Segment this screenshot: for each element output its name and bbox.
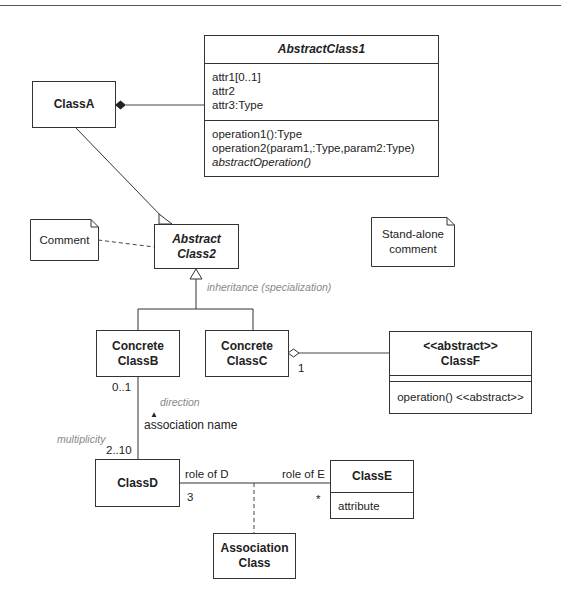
abstract-class2-name-line1: Abstract: [172, 232, 221, 247]
abstract-class1-attributes: attr1[0..1] attr2 attr3:Type: [205, 63, 438, 120]
class-a[interactable]: ClassA: [32, 81, 116, 128]
abstract-class1-header: AbstractClass1: [205, 36, 438, 63]
multiplicity-d-top: 2..10: [106, 443, 132, 457]
inheritance-label: inheritance (specialization): [207, 281, 331, 293]
concrete-class-c[interactable]: Concrete ClassC: [205, 330, 289, 377]
role-of-d: role of D: [185, 467, 228, 481]
operation: operation2(param1,:Type,param2:Type): [212, 141, 438, 155]
abstract-class1-operations: operation1():Type operation2(param1,:Typ…: [205, 120, 438, 169]
attribute: attr2: [212, 84, 438, 98]
concrete-class-c-name-line1: Concrete: [221, 339, 273, 354]
generalization-arrow-icon: [159, 214, 172, 224]
attribute: attr3:Type: [212, 98, 438, 112]
aggregation-diamond-icon: [288, 349, 299, 357]
class-e-attribute: attribute: [338, 500, 380, 512]
composition-diamond-icon: [115, 101, 126, 110]
class-e[interactable]: ClassE attribute: [330, 460, 414, 519]
comment-note[interactable]: Comment: [30, 219, 99, 261]
standalone-comment-line1: Stand-alone: [382, 227, 444, 242]
role-of-e: role of E: [282, 467, 325, 481]
concrete-class-b-name-line2: ClassB: [112, 354, 164, 369]
abstract-class2-name-line2: Class2: [172, 247, 221, 262]
standalone-comment-line2: comment: [382, 242, 444, 257]
class-f[interactable]: <<abstract>> ClassF operation() <<abstra…: [389, 331, 532, 414]
class-f-operation: operation() <<abstract>>: [397, 390, 524, 404]
class-d-name: ClassD: [117, 476, 158, 491]
concrete-class-b-name-line1: Concrete: [112, 339, 164, 354]
association-class-name-line2: Class: [220, 556, 288, 571]
abstract-class1-name: AbstractClass1: [278, 42, 365, 57]
abstract-class2[interactable]: Abstract Class2: [154, 224, 239, 269]
class-e-attributes: attribute: [331, 492, 413, 513]
class-a-name: ClassA: [54, 97, 95, 112]
multiplicity-d-right: 3: [187, 490, 193, 504]
multiplicity-e: *: [316, 492, 320, 506]
multiplicity-label: multiplicity: [57, 433, 105, 445]
multiplicity-c: 1: [298, 361, 304, 375]
class-f-operations: operation() <<abstract>>: [390, 381, 531, 412]
association-class[interactable]: Association Class: [213, 533, 296, 579]
class-d[interactable]: ClassD: [95, 459, 180, 507]
abstract-class1[interactable]: AbstractClass1 attr1[0..1] attr2 attr3:T…: [204, 35, 439, 177]
direction-label: direction: [160, 396, 200, 408]
association-name: association name: [144, 418, 237, 432]
class-e-name: ClassE: [352, 469, 392, 484]
standalone-comment-note[interactable]: Stand-alone comment: [371, 217, 455, 267]
class-f-stereotype: <<abstract>>: [423, 339, 498, 354]
abstract-operation: abstractOperation(): [212, 155, 438, 169]
attribute: attr1[0..1]: [212, 70, 438, 84]
multiplicity-b: 0..1: [112, 380, 131, 394]
class-e-header: ClassE: [331, 461, 413, 492]
association-class-name-line1: Association: [220, 541, 288, 556]
comment-text: Comment: [40, 233, 90, 248]
class-f-name: ClassF: [423, 354, 498, 369]
concrete-class-b[interactable]: Concrete ClassB: [96, 330, 180, 377]
concrete-class-c-name-line2: ClassC: [221, 354, 273, 369]
inheritance-arrow-icon: [190, 269, 202, 279]
class-f-header: <<abstract>> ClassF: [390, 332, 531, 375]
operation: operation1():Type: [212, 127, 438, 141]
